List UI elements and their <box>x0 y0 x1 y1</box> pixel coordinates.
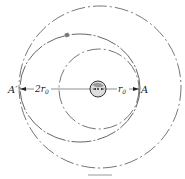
earth-center <box>97 88 99 90</box>
orbit-diagram: A′ A 2r0 r0 <box>0 0 185 179</box>
arrow-right-icon <box>133 87 139 91</box>
arrow-left-icon <box>20 87 26 91</box>
apogee-label: A′ <box>7 84 18 95</box>
perigee-label: A <box>140 84 148 95</box>
satellite-icon <box>64 32 69 37</box>
caption-artifact <box>88 174 112 176</box>
